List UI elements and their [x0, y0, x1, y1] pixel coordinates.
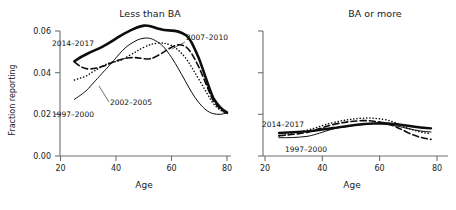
x-tick-label-left-40: 40	[111, 164, 121, 173]
annotation-right-1997-2000: 1997–2000	[285, 145, 327, 154]
chart-svg: Less than BA 0.00 0.02 0.04 0.06 20 40 6…	[0, 0, 456, 210]
x-tick-label-left-20: 20	[55, 164, 65, 173]
x-tick-label-right-80: 80	[432, 164, 442, 173]
y-tick-label-3: 0.06	[33, 27, 51, 36]
panel-title-left: Less than BA	[119, 8, 181, 19]
y-tick-label-0: 0.00	[33, 152, 51, 161]
y-axis-label: Fraction reporting	[8, 64, 17, 135]
panel-ba-or-more: BA or more 20 40 60 80 Age	[258, 8, 448, 190]
y-tick-label-1: 0.02	[33, 110, 51, 119]
panel-less-than-ba: Less than BA 0.00 0.02 0.04 0.06 20 40 6…	[8, 8, 232, 190]
x-axis-label-right: Age	[343, 180, 361, 190]
annotation-right-2014-2017: 2014–2017	[262, 120, 304, 129]
x-tick-label-left-80: 80	[222, 164, 232, 173]
x-tick-label-right-40: 40	[317, 164, 327, 173]
x-tick-label-right-60: 60	[375, 164, 385, 173]
panel-title-right: BA or more	[348, 8, 402, 19]
annotation-left-2014-2017: 2014–2017	[52, 39, 94, 48]
annotation-left-1997-2000: 1997–2000	[52, 110, 94, 119]
x-tick-label-left-60: 60	[166, 164, 176, 173]
figure-root: Less than BA 0.00 0.02 0.04 0.06 20 40 6…	[0, 0, 456, 210]
x-axis-label-left: Age	[135, 180, 153, 190]
annotation-left-2002-2005: 2002–2005	[110, 98, 152, 107]
x-tick-label-right-20: 20	[260, 164, 270, 173]
annotation-left-2007-2010: 2007–2010	[186, 33, 228, 42]
leader-2002-2005	[99, 86, 109, 102]
y-tick-label-2: 0.04	[33, 69, 51, 78]
